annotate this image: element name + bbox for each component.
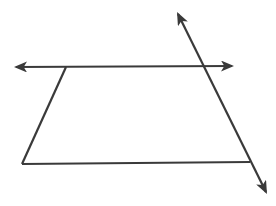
trapezoid-bottom-side [22, 162, 250, 164]
trapezoid-left-side [22, 67, 66, 164]
horizontal-line-with-arrows [16, 66, 232, 67]
geometry-diagram [0, 0, 276, 206]
transversal-line-with-arrows [178, 14, 266, 192]
